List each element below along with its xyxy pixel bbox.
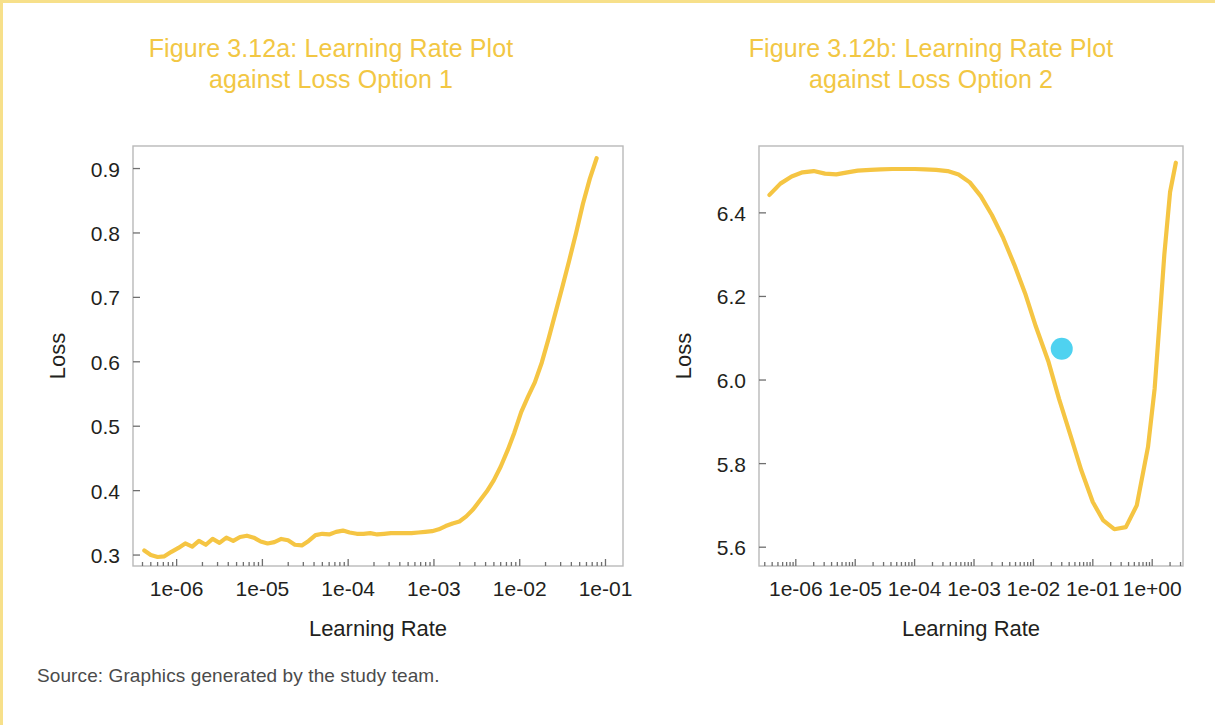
y-tick-label: 5.6 bbox=[717, 536, 746, 559]
y-tick-label: 0.6 bbox=[91, 351, 120, 374]
y-tick-label: 0.7 bbox=[91, 286, 120, 309]
figure-panel-b: Figure 3.12b: Learning Rate Plot against… bbox=[651, 3, 1211, 663]
source-note: Source: Graphics generated by the study … bbox=[37, 665, 440, 687]
x-axis-title: Learning Rate bbox=[902, 616, 1040, 641]
loss-curve bbox=[769, 163, 1175, 529]
x-tick-label: 1e-01 bbox=[1066, 577, 1120, 600]
figure-a-title-line1: Figure 3.12a: Learning Rate Plot bbox=[149, 34, 514, 62]
x-tick-label: 1e-01 bbox=[579, 577, 633, 600]
y-tick-label: 0.9 bbox=[91, 158, 120, 181]
y-axis-title: Loss bbox=[671, 333, 696, 379]
y-tick-label: 0.3 bbox=[91, 544, 120, 567]
loss-curve bbox=[144, 158, 596, 557]
x-tick-label: 1e-03 bbox=[947, 577, 1001, 600]
figure-a-plot-area: 1e-061e-051e-041e-031e-021e-010.30.40.50… bbox=[11, 133, 651, 653]
y-tick-label: 6.4 bbox=[717, 202, 747, 225]
figure-a-title: Figure 3.12a: Learning Rate Plot against… bbox=[11, 33, 651, 95]
suggested-learning-rate-marker bbox=[1051, 338, 1073, 360]
y-tick-label: 0.5 bbox=[91, 415, 120, 438]
x-tick-label: 1e-02 bbox=[1007, 577, 1061, 600]
x-tick-label: 1e-02 bbox=[493, 577, 547, 600]
y-tick-label: 5.8 bbox=[717, 453, 746, 476]
figure-b-plot-area: 1e-061e-051e-041e-031e-021e-011e+005.65.… bbox=[651, 133, 1211, 653]
figure-panel-a: Figure 3.12a: Learning Rate Plot against… bbox=[11, 3, 651, 663]
y-tick-label: 6.2 bbox=[717, 285, 746, 308]
y-tick-label: 0.4 bbox=[91, 480, 121, 503]
figure-b-chart: 1e-061e-051e-041e-031e-021e-011e+005.65.… bbox=[651, 133, 1211, 653]
figure-a-title-line2: against Loss Option 1 bbox=[209, 65, 453, 93]
x-tick-label: 1e+00 bbox=[1123, 577, 1182, 600]
figure-b-title: Figure 3.12b: Learning Rate Plot against… bbox=[651, 33, 1211, 95]
x-tick-label: 1e-06 bbox=[769, 577, 823, 600]
figure-frame: Figure 3.12a: Learning Rate Plot against… bbox=[0, 0, 1215, 725]
figure-b-title-line1: Figure 3.12b: Learning Rate Plot bbox=[749, 34, 1114, 62]
y-tick-label: 0.8 bbox=[91, 222, 120, 245]
x-axis-title: Learning Rate bbox=[309, 616, 447, 641]
x-tick-label: 1e-04 bbox=[888, 577, 942, 600]
figure-a-chart: 1e-061e-051e-041e-031e-021e-010.30.40.50… bbox=[11, 133, 651, 653]
x-tick-label: 1e-03 bbox=[407, 577, 461, 600]
y-tick-label: 6.0 bbox=[717, 369, 746, 392]
x-tick-label: 1e-04 bbox=[321, 577, 375, 600]
x-tick-label: 1e-05 bbox=[828, 577, 882, 600]
x-tick-label: 1e-06 bbox=[150, 577, 204, 600]
x-tick-label: 1e-05 bbox=[236, 577, 290, 600]
figure-b-title-line2: against Loss Option 2 bbox=[809, 65, 1053, 93]
y-axis-title: Loss bbox=[45, 333, 70, 379]
